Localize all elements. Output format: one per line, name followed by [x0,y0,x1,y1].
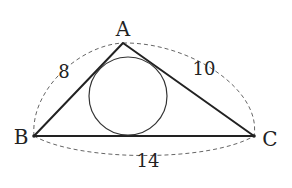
side-label-ab: 8 [58,61,69,82]
vertex-c-dot [252,134,256,138]
triangle-abc [34,43,254,136]
vertex-label-c: C [262,127,277,151]
vertex-b-dot [32,134,36,138]
vertex-label-b: B [14,125,29,149]
triangle-diagram: A B C 8 10 14 [0,0,292,188]
vertex-label-a: A [115,17,131,41]
incircle [89,57,167,135]
side-label-ac: 10 [193,58,216,79]
side-label-bc: 14 [137,150,160,171]
